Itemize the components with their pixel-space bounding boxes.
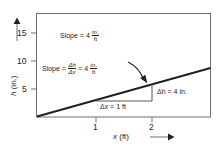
annotation-slope-ratio-equals: = 4 (78, 65, 88, 72)
annotation-slope-simple-lead: Slope = 4 (60, 32, 90, 39)
y-tick-label-15: 15 (17, 29, 26, 38)
annotation-slope-ratio-lead: Slope = (42, 65, 66, 72)
unit-numerator: in. (90, 62, 97, 68)
annotation-slope-simple-unit-fraction: in. ft (92, 29, 99, 43)
annotation-slope-simple: Slope = 4 in. ft (60, 29, 99, 43)
unit-denominator: ft (92, 35, 99, 42)
slope-line-chart: 15 10 5 1 2 h (in.) x (ft) Slope = 4 in.… (0, 0, 223, 157)
annotation-slope-ratio: Slope = Δh Δx = 4 in. ft (42, 62, 97, 76)
annotation-slope-ratio-fraction: Δh Δx (68, 62, 76, 76)
x-tick-label-2: 2 (149, 123, 154, 132)
chart-canvas (0, 0, 223, 157)
y-axis-title: h (in.) (10, 76, 18, 96)
y-axis-title-variable: h (9, 92, 18, 96)
y-axis-title-unit-space (9, 89, 18, 91)
annotation-slope-ratio-unit-fraction: in. ft (90, 62, 97, 76)
leader-arrow-head (140, 75, 147, 83)
annotation-delta-x: Δx = 1 ft (100, 103, 126, 110)
x-axis-title: x (ft) (113, 133, 129, 141)
unit-denominator: ft (90, 68, 97, 75)
x-tick-label-1: 1 (93, 123, 98, 132)
y-tick-label-5: 5 (22, 85, 27, 94)
leader-arrow-curve (128, 62, 144, 80)
y-axis-title-unit: (in.) (9, 76, 18, 90)
y-tick-label-10: 10 (17, 57, 26, 66)
x-axis-title-unit: (ft) (119, 132, 129, 141)
x-axis-arrow-head (168, 134, 175, 141)
annotation-delta-h: Δh = 4 in. (157, 88, 187, 95)
ratio-numerator: Δh (68, 62, 76, 68)
ratio-denominator: Δx (68, 68, 76, 75)
y-axis-arrow-head (14, 18, 21, 25)
unit-numerator: in. (92, 29, 99, 35)
